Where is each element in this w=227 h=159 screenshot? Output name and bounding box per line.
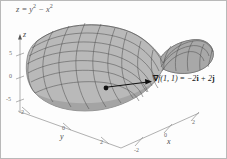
annotation-point: (1, 1) xyxy=(160,74,177,83)
x-axis-line xyxy=(121,113,199,148)
gradient-annotation-label: ∇f(1, 1) = −2i + 2j xyxy=(153,75,215,83)
x-tick-label-2: 2 xyxy=(192,119,195,125)
equation-mid: − x xyxy=(36,4,50,14)
x-axis-label: x xyxy=(167,138,171,146)
x-tick-label-neg2: -2 xyxy=(134,147,139,153)
annotation-value: −2 xyxy=(187,74,196,83)
equation-exponent-2: 2 xyxy=(50,3,53,9)
surface-right-lobe-shadow xyxy=(161,40,214,74)
saddle-surface xyxy=(26,23,213,111)
annotation-plus: + 2 xyxy=(199,74,212,83)
equation-lhs: z = y xyxy=(16,4,33,14)
gradient-point-marker xyxy=(104,86,109,91)
equation-caption: z = y2 − x2 xyxy=(16,3,53,13)
y-axis-label: y xyxy=(60,133,64,141)
y-tick-label-neg2: -2 xyxy=(19,109,24,115)
annotation-equals: = xyxy=(178,74,187,83)
y-axis-line xyxy=(18,111,121,148)
z-tick-label-neg5: -5 xyxy=(6,96,11,102)
annotation-j-hat: j xyxy=(212,74,215,83)
y-tick-label-0: 0 xyxy=(62,125,65,131)
math-figure-saddle-surface: z = y2 − x2 z 5 0 -5 -2 0 2 y -2 0 2 x ∇… xyxy=(0,0,227,159)
z-axis-label: z xyxy=(23,31,26,39)
z-tick-label-0: 0 xyxy=(9,73,12,79)
z-tick-label-5: 5 xyxy=(9,50,12,56)
z-axis-arrow xyxy=(18,34,22,40)
y-tick-label-2: 2 xyxy=(100,139,103,145)
